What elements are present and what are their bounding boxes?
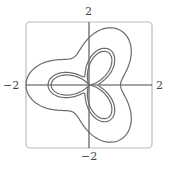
y-max-tick-label: 2 [85,6,92,17]
x-min-tick-label: −2 [3,80,19,91]
y-min-tick-label: −2 [81,151,97,162]
x-max-tick-label: 2 [156,80,163,91]
polar-plot [0,0,170,170]
